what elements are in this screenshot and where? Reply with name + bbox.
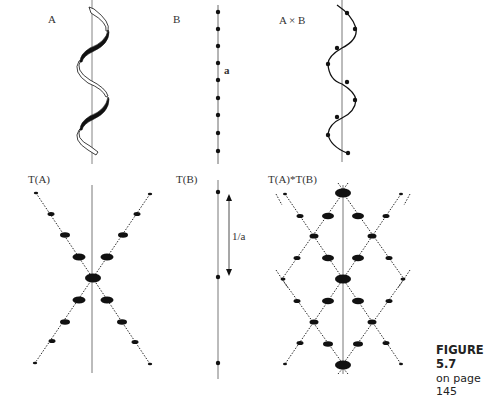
helix-diagram-a <box>77 0 109 164</box>
diagram-canvas <box>0 0 489 407</box>
arrow-down-icon <box>226 269 232 276</box>
transform-diagram-tatb <box>276 183 410 374</box>
convolution-diagram-axb <box>326 0 357 162</box>
transform-diagram-tb <box>216 180 232 379</box>
arrow-up-icon <box>226 194 232 201</box>
transform-diagram-ta <box>33 185 152 373</box>
lattice-diagram-b <box>216 5 220 164</box>
